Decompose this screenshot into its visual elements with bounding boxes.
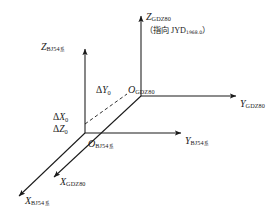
- delta-y-dashed-connector: [85, 94, 127, 124]
- delta-z0-label: ΔZ0: [53, 124, 68, 135]
- gdz80-z-axis-note: （指向JYD1968.0）: [145, 26, 210, 36]
- gdz80-x-axis-label: XGDZ80: [60, 177, 86, 188]
- bj54-y-axis-label: YBJ54系: [185, 136, 209, 147]
- axes-drawing: [0, 0, 270, 224]
- bj54-z-axis-label: ZBJ54系: [41, 42, 65, 53]
- delta-x0-label: ΔX0: [53, 112, 68, 123]
- gdz80-z-axis-label: ZGDZ80: [146, 12, 171, 23]
- gdz80-y-axis-label: YGDZ80: [240, 99, 265, 110]
- bj54-x-axis-label: XBJ54系: [25, 196, 50, 207]
- coordinate-transformation-figure: ZGDZ80 （指向JYD1968.0） YGDZ80 XGDZ80 OGDZ8…: [0, 0, 270, 224]
- delta-y0-label: ΔY0: [96, 85, 111, 96]
- gdz80-origin-label: OGDZ80: [128, 85, 155, 96]
- bj54-origin-label: OBJ54系: [88, 139, 114, 150]
- gdz80-x-axis: [54, 96, 141, 177]
